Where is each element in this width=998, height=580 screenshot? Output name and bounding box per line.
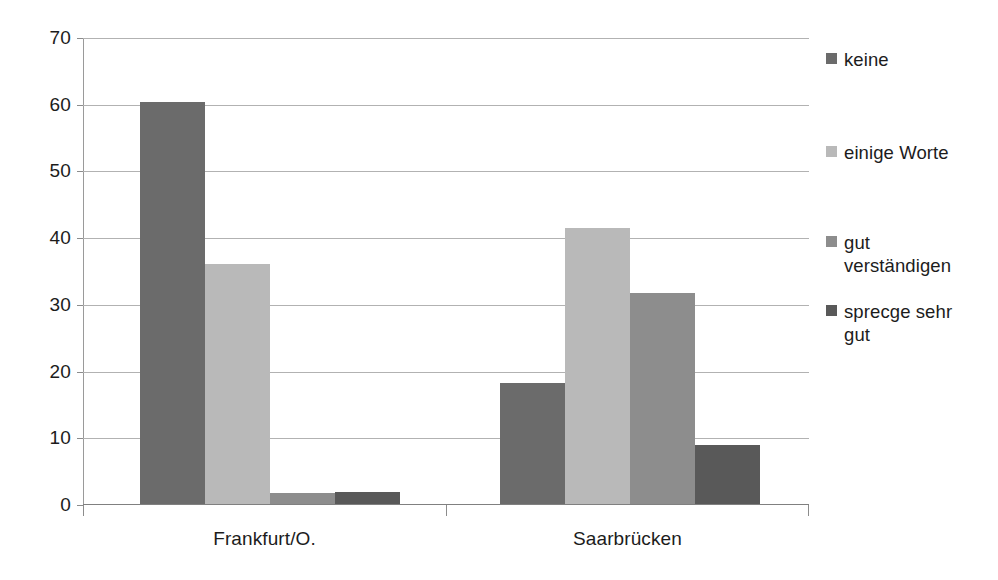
- legend-label: sprecge sehr gut: [844, 300, 952, 346]
- legend-swatch-icon: [826, 146, 837, 157]
- legend-item[interactable]: einige Worte: [826, 141, 949, 164]
- bar: [630, 293, 695, 504]
- legend-swatch-icon: [826, 305, 837, 316]
- y-axis-tick-label: 30: [49, 294, 71, 316]
- legend-swatch-icon: [826, 236, 837, 247]
- x-axis-tick: [446, 505, 447, 516]
- bar: [695, 445, 760, 504]
- x-axis-tick: [83, 505, 84, 516]
- bar: [205, 264, 270, 504]
- legend-label: keine: [844, 48, 889, 71]
- bar: [140, 102, 205, 504]
- y-axis-tick-label: 20: [49, 361, 71, 383]
- y-axis-tick-label: 10: [49, 427, 71, 449]
- y-axis-tick-label: 60: [49, 94, 71, 116]
- x-axis-tick: [808, 505, 809, 516]
- legend-item[interactable]: keine: [826, 48, 889, 71]
- y-axis-tick-labels: 010203040506070: [0, 38, 71, 505]
- bar-chart: 010203040506070 Frankfurt/O.Saarbrücken …: [0, 0, 998, 580]
- y-axis-tick-label: 50: [49, 160, 71, 182]
- x-axis-category-label: Saarbrücken: [573, 528, 682, 550]
- legend-label: einige Worte: [844, 141, 949, 164]
- y-axis-tick-label: 0: [60, 494, 71, 516]
- bar: [500, 383, 565, 504]
- y-axis-tick-label: 40: [49, 227, 71, 249]
- legend-label: gut verständigen: [844, 231, 951, 277]
- legend-item[interactable]: gut verständigen: [826, 231, 951, 277]
- bar: [270, 493, 335, 504]
- y-axis-tick-label: 70: [49, 27, 71, 49]
- x-axis-category-label: Frankfurt/O.: [213, 528, 316, 550]
- bars-layer: [83, 38, 809, 505]
- x-axis: Frankfurt/O.Saarbrücken: [83, 505, 809, 575]
- legend-item[interactable]: sprecge sehr gut: [826, 300, 952, 346]
- legend-swatch-icon: [826, 53, 837, 64]
- bar: [335, 492, 400, 504]
- bar: [565, 228, 630, 504]
